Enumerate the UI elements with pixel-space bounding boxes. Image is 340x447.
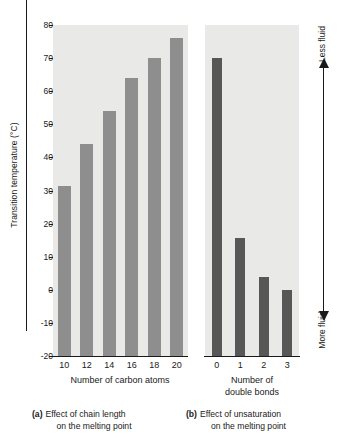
x-axis-line-b	[204, 356, 300, 357]
x-axis-title-b-line1: Number of	[205, 375, 299, 387]
x-tick-label: 3	[285, 360, 290, 370]
y-axis-title: Transition temperature (°C)	[9, 95, 19, 255]
bar	[148, 58, 161, 356]
x-tick-label: 2	[261, 360, 266, 370]
bar	[235, 238, 245, 356]
bar	[80, 144, 93, 356]
x-tick-label: 12	[82, 360, 92, 370]
y-tick-label: 80	[27, 21, 53, 29]
caption-a: (a)Effect of chain lengthon the melting …	[32, 409, 182, 432]
bar	[125, 78, 138, 356]
x-axis-title-a: Number of carbon atoms	[40, 375, 200, 387]
caption-b-line1: Effect of unsaturation	[200, 409, 281, 419]
bar-group-b	[205, 25, 299, 356]
y-tick-label: -10	[27, 319, 53, 327]
y-tick-label: 20	[27, 220, 53, 228]
y-tick-label: 10	[27, 253, 53, 261]
less-fluid-label: Less fluid	[317, 13, 327, 75]
y-tick-label: 60	[27, 87, 53, 95]
bar	[259, 277, 269, 356]
y-tick-label: 30	[27, 187, 53, 195]
fluidity-arrow-line	[323, 67, 324, 314]
caption-b: (b)Effect of unsaturationon the melting …	[186, 409, 336, 432]
y-tick-label: 40	[27, 153, 53, 161]
more-fluid-label: More fluid	[317, 299, 327, 361]
bar	[170, 38, 183, 356]
figure-root: Transition temperature (°C) 807060504030…	[0, 0, 340, 447]
bar	[212, 58, 222, 356]
x-axis-title-b-line2: double bonds	[205, 387, 299, 399]
y-tick-label: 0	[27, 286, 53, 294]
x-tick-label: 16	[127, 360, 137, 370]
x-axis-line-a	[52, 356, 188, 357]
plot-area-b	[205, 25, 299, 356]
x-tick-label: 20	[172, 360, 182, 370]
plot-area-a	[53, 25, 188, 356]
y-tick-label: -20	[27, 352, 53, 360]
x-tick-label: 0	[214, 360, 219, 370]
fluidity-axis: Less fluid More fluid	[310, 25, 338, 356]
x-axis-title-b: Number of double bonds	[205, 375, 299, 398]
y-axis-ticks: 80706050403020100-10-20	[26, 25, 53, 356]
x-tick-label: 18	[149, 360, 159, 370]
x-tick-label: 14	[104, 360, 114, 370]
bar	[282, 290, 292, 356]
bar	[58, 186, 71, 356]
caption-b-line2: on the melting point	[200, 421, 286, 433]
caption-a-line2: on the melting point	[46, 421, 132, 433]
caption-a-tag: (a)	[32, 409, 43, 419]
caption-a-line1: Effect of chain length	[46, 409, 126, 419]
bar-group-a	[53, 25, 188, 356]
bar	[103, 111, 116, 356]
y-tick-label: 70	[27, 54, 53, 62]
x-tick-label: 10	[59, 360, 69, 370]
caption-b-tag: (b)	[186, 409, 197, 419]
x-tick-label: 1	[238, 360, 243, 370]
y-tick-label: 50	[27, 120, 53, 128]
